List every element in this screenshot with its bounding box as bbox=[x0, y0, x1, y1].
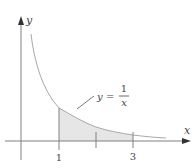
function-label: y = 1 x bbox=[96, 83, 129, 108]
tick-label-3: 3 bbox=[130, 151, 136, 162]
tick-label-1: 1 bbox=[56, 152, 62, 163]
label-leader-line bbox=[77, 96, 94, 109]
y-axis-arrow-icon bbox=[18, 16, 24, 25]
function-label-numerator: 1 bbox=[121, 83, 127, 94]
function-label-lhs: y bbox=[96, 91, 103, 102]
x-axis-arrow-icon bbox=[182, 138, 191, 144]
curve-one-over-x bbox=[31, 34, 166, 138]
area-under-curve-figure: 1 3 y x y = 1 x bbox=[0, 0, 196, 168]
y-axis-label: y bbox=[25, 14, 33, 27]
function-label-denominator: x bbox=[121, 97, 127, 108]
x-axis-label: x bbox=[184, 124, 191, 137]
function-label-equals: = bbox=[106, 91, 114, 102]
